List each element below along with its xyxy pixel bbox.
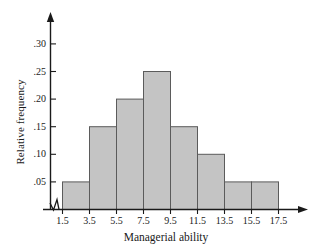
histogram-figure: .05.10.15.20.25.30 1.53.55.57.59.511.513…: [0, 0, 319, 252]
x-tick-label: 1.5: [48, 216, 78, 226]
x-tick-label: 17.5: [264, 216, 294, 226]
x-tick-label: 13.5: [210, 216, 240, 226]
x-tick-label-group: 1.53.55.57.59.511.513.515.517.5: [0, 0, 319, 252]
y-axis-title: Relative frequency: [14, 37, 26, 207]
x-tick-label: 5.5: [102, 216, 132, 226]
x-tick-label: 11.5: [183, 216, 213, 226]
x-axis-title: Managerial ability: [50, 231, 282, 243]
x-tick-label: 7.5: [129, 216, 159, 226]
x-tick-label: 9.5: [156, 216, 186, 226]
x-tick-label: 15.5: [237, 216, 267, 226]
x-tick-label: 3.5: [75, 216, 105, 226]
